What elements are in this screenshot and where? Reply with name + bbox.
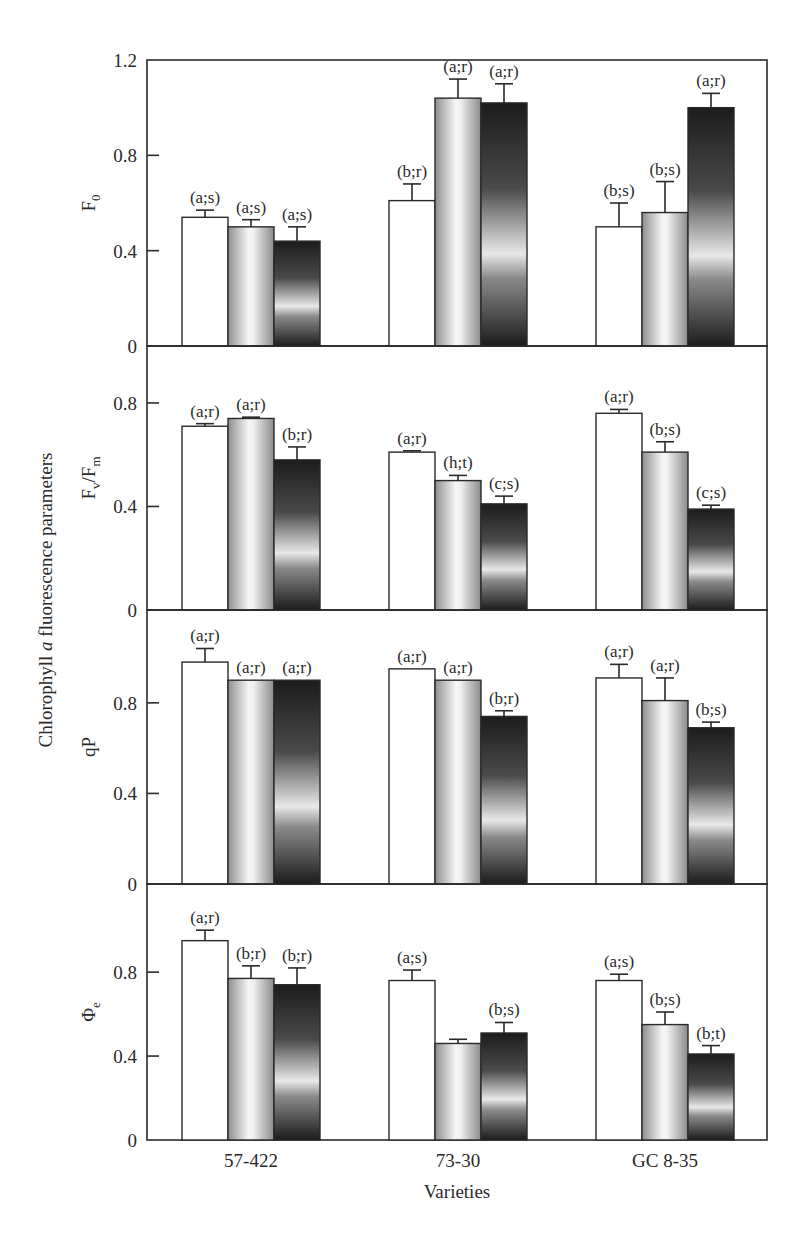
bar bbox=[642, 1025, 688, 1140]
bar-group-73-30: (b;r)(a;r)(a;r) bbox=[389, 57, 527, 346]
y-tick-label: 0.8 bbox=[113, 962, 137, 983]
significance-label: (b;s) bbox=[649, 420, 680, 439]
bar-group-73-30: (a;r)(a;r)(b;r) bbox=[389, 647, 527, 884]
bar bbox=[435, 98, 481, 346]
bar bbox=[389, 452, 435, 610]
bar bbox=[642, 452, 688, 610]
significance-label: (b;r) bbox=[282, 946, 312, 965]
bar bbox=[389, 981, 435, 1140]
bar bbox=[389, 669, 435, 884]
bar bbox=[688, 1054, 734, 1140]
significance-label: (a;r) bbox=[282, 658, 311, 677]
significance-label: (c;s) bbox=[489, 474, 519, 493]
bar bbox=[481, 504, 527, 610]
bar bbox=[435, 481, 481, 610]
significance-label: (b;r) bbox=[282, 425, 312, 444]
significance-label: (b;s) bbox=[488, 1000, 519, 1019]
y-tick-label: 0.4 bbox=[113, 496, 137, 517]
bar-group-73-30: (a;s)(b;s) bbox=[389, 948, 527, 1140]
significance-label: (b;s) bbox=[649, 160, 680, 179]
bar bbox=[228, 978, 274, 1140]
significance-label: (a;s) bbox=[397, 948, 427, 967]
bar-group-57-422: (a;s)(a;s)(a;s) bbox=[182, 188, 320, 346]
significance-label: (a;r) bbox=[397, 647, 426, 666]
bar bbox=[596, 227, 642, 346]
bar bbox=[182, 426, 228, 610]
bar bbox=[435, 680, 481, 884]
bar-group-73-30: (a;r)(h;t)(c;s) bbox=[389, 429, 527, 610]
bar-group-GC-8-35: (a;r)(b;s)(c;s) bbox=[596, 387, 734, 610]
significance-label: (b;r) bbox=[236, 944, 266, 963]
significance-label: (a;s) bbox=[282, 205, 312, 224]
bar bbox=[274, 241, 320, 346]
bar bbox=[182, 941, 228, 1140]
bar bbox=[389, 201, 435, 346]
bar bbox=[596, 981, 642, 1140]
y-tick-label: 0.8 bbox=[113, 693, 137, 714]
bar-group-GC-8-35: (b;s)(b;s)(a;r) bbox=[596, 71, 734, 346]
bar bbox=[481, 716, 527, 884]
panel-y-label: Φe bbox=[78, 1002, 103, 1022]
panel-2: 00.40.8Fv/Fm(a;r)(a;r)(b;r)(a;r)(h;t)(c;… bbox=[78, 346, 767, 621]
y-tick-label: 0 bbox=[128, 336, 138, 357]
chlorophyll-fluorescence-chart: 00.40.81.2F0(a;s)(a;s)(a;s)(b;r)(a;r)(a;… bbox=[0, 0, 805, 1236]
bar bbox=[228, 680, 274, 884]
y-tick-label: 0.4 bbox=[113, 1046, 137, 1067]
bar-group-57-422: (a;r)(a;r)(a;r) bbox=[182, 626, 320, 884]
bar bbox=[481, 1033, 527, 1140]
bar bbox=[274, 680, 320, 884]
y-tick-label: 0 bbox=[128, 1130, 138, 1151]
y-tick-label: 1.2 bbox=[113, 50, 137, 71]
x-category-label: 73-30 bbox=[436, 1150, 480, 1171]
significance-label: (a;r) bbox=[190, 626, 219, 645]
bar-group-GC-8-35: (a;r)(a;r)(b;s) bbox=[596, 642, 734, 884]
bar bbox=[435, 1043, 481, 1140]
bar bbox=[596, 678, 642, 884]
y-tick-label: 0.4 bbox=[113, 783, 137, 804]
bar bbox=[688, 509, 734, 610]
significance-label: (a;r) bbox=[696, 71, 725, 90]
y-tick-label: 0 bbox=[128, 600, 138, 621]
significance-label: (a;r) bbox=[650, 656, 679, 675]
x-category-label: 57-422 bbox=[224, 1150, 278, 1171]
significance-label: (a;r) bbox=[443, 57, 472, 76]
significance-label: (b;s) bbox=[649, 990, 680, 1009]
significance-label: (a;s) bbox=[604, 952, 634, 971]
bar bbox=[182, 662, 228, 884]
significance-label: (c;s) bbox=[696, 483, 726, 502]
panel-y-label: Fv/Fm bbox=[78, 456, 103, 499]
significance-label: (b;t) bbox=[696, 1024, 725, 1043]
significance-label: (a;r) bbox=[397, 429, 426, 448]
y-tick-label: 0.8 bbox=[113, 145, 137, 166]
bar bbox=[642, 213, 688, 346]
significance-label: (a;r) bbox=[236, 395, 265, 414]
significance-label: (a;r) bbox=[190, 908, 219, 927]
bar bbox=[481, 103, 527, 346]
bar bbox=[596, 413, 642, 610]
bar bbox=[274, 985, 320, 1140]
bar bbox=[274, 460, 320, 610]
bar bbox=[688, 728, 734, 884]
bar bbox=[228, 418, 274, 610]
y-tick-label: 0.4 bbox=[113, 241, 137, 262]
y-axis-title: Chlorophyll a fluorescence parameters bbox=[35, 453, 56, 748]
significance-label: (a;r) bbox=[604, 642, 633, 661]
x-category-label: GC 8-35 bbox=[632, 1150, 698, 1171]
significance-label: (a;r) bbox=[443, 658, 472, 677]
bar-group-57-422: (a;r)(b;r)(b;r) bbox=[182, 908, 320, 1140]
plot-area: 00.40.81.2F0(a;s)(a;s)(a;s)(b;r)(a;r)(a;… bbox=[78, 50, 767, 1151]
significance-label: (a;r) bbox=[236, 658, 265, 677]
bar bbox=[688, 108, 734, 346]
panel-y-label: F0 bbox=[78, 194, 103, 211]
panel-4: 00.40.8Φe(a;r)(b;r)(b;r)(a;s)(b;s)(a;s)(… bbox=[78, 884, 767, 1151]
bar bbox=[228, 227, 274, 346]
x-axis-title: Varieties bbox=[424, 1181, 490, 1202]
panel-3: 00.40.8qP(a;r)(a;r)(a;r)(a;r)(a;r)(b;r)(… bbox=[78, 610, 767, 895]
significance-label: (b;r) bbox=[397, 162, 427, 181]
significance-label: (b;s) bbox=[695, 700, 726, 719]
bar-group-57-422: (a;r)(a;r)(b;r) bbox=[182, 395, 320, 610]
significance-label: (a;s) bbox=[190, 188, 220, 207]
y-tick-label: 0 bbox=[128, 874, 138, 895]
significance-label: (b;r) bbox=[489, 689, 519, 708]
significance-label: (h;t) bbox=[443, 453, 472, 472]
